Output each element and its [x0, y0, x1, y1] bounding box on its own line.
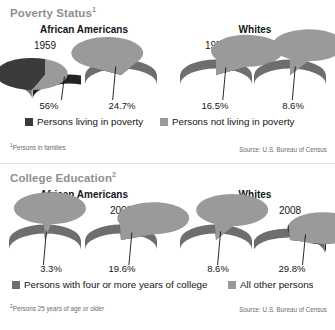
legend-college: Persons with four or more years of colle…	[0, 280, 335, 294]
value-label-college-wh-2008: 29.8%	[264, 263, 320, 274]
section-title-text-college: College Education	[10, 172, 112, 184]
legend-item-persons-not-living-in-poverty: Persons not living in poverty	[160, 117, 295, 127]
source-college: Source: U.S. Bureau of Census	[239, 306, 327, 313]
legend-item-persons-with-college: Persons with four or more years of colle…	[12, 280, 208, 290]
legend-label-persons-living-in-poverty: Persons living in poverty	[37, 117, 143, 127]
section-poverty-status: Poverty Status1 African Americans Whites…	[0, 0, 335, 165]
section-title-text: Poverty Status	[10, 7, 92, 19]
legend-label-all-other-persons: All other persons	[240, 280, 314, 290]
legend-swatch-dark-college-icon	[12, 281, 20, 289]
value-label-college-aa-1959: 3.3%	[23, 263, 79, 274]
footnote-text-college: Persons 25 years of age or older	[13, 305, 104, 312]
pie-chart-poverty-aa-1959	[8, 55, 82, 101]
value-label-poverty-wh-1959: 16.5%	[187, 100, 243, 111]
section-title-footnote-marker-college: 2	[112, 171, 116, 178]
pie-chart-college-wh-2008	[253, 220, 327, 266]
section-title-poverty: Poverty Status1	[10, 6, 96, 19]
year-label-poverty-aa-1959: 1959	[17, 40, 73, 51]
group-label-african-americans-poverty: African Americans	[19, 24, 149, 35]
footnote-poverty: 1Persons in families	[10, 142, 66, 151]
legend-poverty: Persons living in poverty Persons not li…	[0, 117, 335, 131]
footnote-college: 2Persons 25 years of age or older	[10, 303, 104, 312]
footnote-text-poverty: Persons in families	[13, 144, 66, 151]
legend-swatch-dark-icon	[25, 118, 33, 126]
section-title-footnote-marker: 1	[92, 6, 96, 13]
pie-chart-poverty-wh-2008	[253, 55, 327, 101]
legend-swatch-light-icon	[160, 118, 168, 126]
legend-item-all-other-persons: All other persons	[228, 280, 314, 290]
value-label-poverty-wh-2008: 8.6%	[265, 100, 321, 111]
value-label-poverty-aa-1959: 56%	[21, 100, 77, 111]
legend-label-persons-not-living-in-poverty: Persons not living in poverty	[172, 117, 295, 127]
value-label-poverty-aa-2008: 24.7%	[94, 100, 150, 111]
pie-chart-poverty-aa-2008	[84, 55, 158, 101]
legend-label-persons-with-college: Persons with four or more years of colle…	[24, 280, 208, 290]
value-label-college-aa-2008: 19.6%	[94, 263, 150, 274]
value-label-college-wh-1959: 8.6%	[190, 263, 246, 274]
legend-item-persons-living-in-poverty: Persons living in poverty	[25, 117, 143, 127]
pie-chart-poverty-wh-1959	[179, 55, 253, 101]
pie-chart-college-wh-1959	[179, 220, 253, 266]
legend-swatch-light-college-icon	[228, 281, 236, 289]
source-poverty: Source: U.S. Bureau of Census	[239, 146, 327, 153]
section-title-college: College Education2	[10, 171, 116, 184]
section-college-education: College Education2 African Americans Whi…	[0, 165, 335, 330]
pie-chart-college-aa-2008	[84, 220, 158, 266]
pie-chart-college-aa-1959	[8, 220, 82, 266]
section-divider	[0, 163, 335, 164]
